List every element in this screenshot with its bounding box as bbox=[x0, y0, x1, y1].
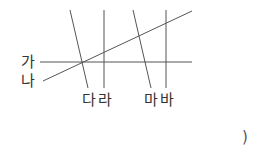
label-ga: 가 bbox=[21, 55, 35, 70]
answer-paren: ) bbox=[242, 130, 248, 145]
line-na bbox=[43, 11, 192, 81]
label-maba: 마바 bbox=[144, 93, 176, 108]
label-na: 나 bbox=[21, 74, 35, 89]
label-dara: 다라 bbox=[82, 93, 114, 108]
line-ma bbox=[133, 10, 151, 88]
parallel-lines-diagram bbox=[0, 0, 263, 160]
line-da bbox=[70, 10, 88, 88]
